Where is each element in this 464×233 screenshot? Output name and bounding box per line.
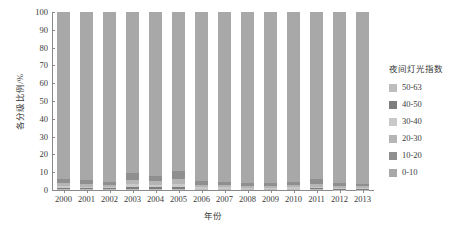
bar-slot (167, 12, 190, 190)
y-axis-tick-label: 100 (0, 8, 48, 17)
x-axis-tick-label: 2005 (167, 194, 190, 204)
bar-segment-0-10 (126, 12, 139, 173)
bar-series-container (52, 12, 374, 190)
legend-item-label: 50-63 (402, 83, 422, 92)
legend-item-10-20[interactable]: 10-20 (389, 147, 464, 164)
x-axis-tick-label: 2012 (328, 194, 351, 204)
y-axis-tick-label: 50 (0, 97, 48, 106)
x-axis-tick-mark (133, 190, 134, 193)
legend-item-20-30[interactable]: 20-30 (389, 130, 464, 147)
x-axis-line (52, 190, 374, 191)
legend-item-label: 40-50 (402, 100, 422, 109)
bar-slot (213, 12, 236, 190)
stacked-bar (172, 12, 185, 190)
y-axis-tick-label: 30 (0, 133, 48, 142)
legend-swatch-icon (389, 169, 397, 177)
bar-slot (190, 12, 213, 190)
bar-segment-0-10 (218, 12, 231, 182)
stacked-bar (80, 12, 93, 190)
stacked-bar (195, 12, 208, 190)
bar-slot (121, 12, 144, 190)
bar-segment-0-10 (264, 12, 277, 183)
y-axis-tick-label: 90 (0, 26, 48, 35)
y-axis-tick-mark (52, 190, 55, 191)
stacked-bar (264, 12, 277, 190)
stacked-bar (310, 12, 323, 190)
legend-swatch-icon (389, 84, 397, 92)
x-axis-tick-mark (179, 190, 180, 193)
x-axis-tick-label: 2004 (144, 194, 167, 204)
x-axis-tick-mark (340, 190, 341, 193)
stacked-bar (356, 12, 369, 190)
bar-segment-0-10 (80, 12, 93, 180)
x-axis-tick-mark (363, 190, 364, 193)
bar-slot (75, 12, 98, 190)
bar-slot (282, 12, 305, 190)
x-axis-tick-label: 2013 (351, 194, 374, 204)
x-axis-tick-label: 2009 (259, 194, 282, 204)
y-axis-tick-label: 80 (0, 44, 48, 53)
y-axis-tick-label: 60 (0, 79, 48, 88)
legend-item-50-63[interactable]: 50-63 (389, 79, 464, 96)
x-axis-tick-labels: 2000200120022003200420052006200720082009… (52, 194, 374, 204)
bar-segment-0-10 (149, 12, 162, 176)
stacked-bar (103, 12, 116, 190)
x-axis-tick-mark (317, 190, 318, 193)
bar-slot (52, 12, 75, 190)
bar-segment-0-10 (356, 12, 369, 184)
legend-item-label: 10-20 (402, 151, 422, 160)
legend-item-label: 20-30 (402, 134, 422, 143)
bar-segment-10-20 (126, 173, 139, 180)
legend-item-0-10[interactable]: 0-10 (389, 164, 464, 181)
x-axis-tick-mark (225, 190, 226, 193)
x-axis-tick-mark (64, 190, 65, 193)
stacked-bar (287, 12, 300, 190)
bar-segment-0-10 (103, 12, 116, 181)
bar-segment-0-10 (333, 12, 346, 183)
stacked-bar (333, 12, 346, 190)
y-axis-tick-label: 0 (0, 186, 48, 195)
bar-slot (328, 12, 351, 190)
y-axis-tick-label: 20 (0, 150, 48, 159)
legend-item-label: 0-10 (402, 168, 418, 177)
legend-swatch-icon (389, 118, 397, 126)
x-axis-tick-mark (202, 190, 203, 193)
bar-segment-0-10 (195, 12, 208, 181)
y-axis-tick-label: 40 (0, 115, 48, 124)
bar-segment-0-10 (287, 12, 300, 182)
legend-item-40-50[interactable]: 40-50 (389, 96, 464, 113)
legend-swatch-icon (389, 101, 397, 109)
stacked-bar (126, 12, 139, 190)
bar-slot (259, 12, 282, 190)
bar-slot (351, 12, 374, 190)
x-axis-tick-mark (156, 190, 157, 193)
x-axis-tick-label: 2001 (75, 194, 98, 204)
x-axis-tick-label: 2002 (98, 194, 121, 204)
bar-segment-0-10 (57, 12, 70, 179)
y-axis-tick-label: 10 (0, 168, 48, 177)
x-axis-tick-mark (271, 190, 272, 193)
stacked-bar (218, 12, 231, 190)
stacked-bar (57, 12, 70, 190)
x-axis-title: 年份 (52, 209, 374, 221)
legend-item-label: 30-40 (402, 117, 422, 126)
x-axis-tick-label: 2000 (52, 194, 75, 204)
stacked-bar (241, 12, 254, 190)
x-axis-tick-label: 2010 (282, 194, 305, 204)
legend: 夜间灯光指数 50-6340-5030-4020-3010-200-10 (389, 64, 464, 181)
x-axis-tick-label: 2007 (213, 194, 236, 204)
stacked-bar (149, 12, 162, 190)
bar-slot (305, 12, 328, 190)
x-axis-tick-label: 2011 (305, 194, 328, 204)
legend-item-30-40[interactable]: 30-40 (389, 113, 464, 130)
legend-swatch-icon (389, 135, 397, 143)
x-axis-tick-mark (87, 190, 88, 193)
bar-segment-0-10 (172, 12, 185, 171)
x-axis-tick-label: 2008 (236, 194, 259, 204)
bar-segment-0-10 (241, 12, 254, 183)
bar-segment-10-20 (172, 171, 185, 179)
bar-segment-0-10 (310, 12, 323, 179)
bar-slot (98, 12, 121, 190)
x-axis-tick-label: 2003 (121, 194, 144, 204)
bar-slot (236, 12, 259, 190)
